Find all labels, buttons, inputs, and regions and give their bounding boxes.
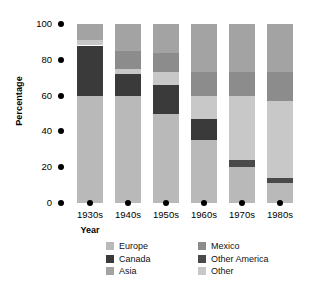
x-axis-tick-dot [277,200,283,206]
bar-segment-asia [267,24,293,72]
bar-segment-canada [115,74,141,95]
y-axis-tick-label: 40 [41,125,52,137]
legend-label: Other America [211,253,269,266]
legend-swatch-icon [106,267,114,275]
legend-column-1: EuropeCanadaAsia [106,240,151,278]
legend-label: Asia [119,265,137,278]
bar-segment-other [191,96,217,119]
bar-segment-other [77,40,103,45]
legend-label: Mexico [211,240,240,253]
legend-item-europe: Europe [106,240,151,253]
y-axis-tick: 60 [20,90,64,102]
bar-1930s [77,24,103,203]
y-axis-tick: 100 [20,18,64,30]
x-axis-tick-dot [239,200,245,206]
legend-item-canada: Canada [106,253,151,266]
legend-label: Europe [119,240,148,253]
y-axis-tick: 0 [20,197,64,209]
bar-1970s [229,24,255,203]
bar-segment-other-america [229,160,255,167]
legend-swatch-icon [198,255,206,263]
legend-swatch-icon [198,267,206,275]
bar-segment-mexico [153,53,179,73]
x-axis-tick-dot [201,200,207,206]
y-axis-tick-label: 20 [41,161,52,173]
chart-legend: EuropeCanadaAsia MexicoOther AmericaOthe… [106,240,306,282]
x-axis-tick-dot [163,200,169,206]
bar-segment-europe [229,167,255,203]
stacked-bar-chart: Percentage 100806040200 1930sYear1940s19… [0,0,314,288]
bar-1960s [191,24,217,203]
bar-segment-mexico [191,72,217,95]
legend-item-asia: Asia [106,265,151,278]
legend-label: Canada [119,253,151,266]
bar-segment-canada [191,119,217,140]
legend-label: Other [211,265,234,278]
bar-segment-europe [153,114,179,204]
y-axis-tick-label: 100 [36,18,52,30]
legend-item-other: Other [198,265,269,278]
bar-segment-canada [153,85,179,114]
legend-item-mexico: Mexico [198,240,269,253]
bar-segment-other [115,69,141,74]
x-axis-tick-dot [125,200,131,206]
bar-segment-other [229,96,255,160]
legend-swatch-icon [106,255,114,263]
y-axis-tick: 20 [20,161,64,173]
bar-segment-mexico [229,72,255,95]
bar-segment-europe [191,140,217,203]
y-axis-tick-label: 60 [41,90,52,102]
bar-segment-other [153,72,179,85]
legend-column-2: MexicoOther AmericaOther [198,240,269,278]
legend-swatch-icon [106,242,114,250]
legend-item-other-america: Other America [198,253,269,266]
plot-area [64,24,292,203]
bar-segment-europe [77,96,103,203]
bar-1940s [115,24,141,203]
x-axis-tick-label: 1980s [258,209,302,220]
y-axis-tick-label: 80 [41,54,52,66]
bar-segment-other-america [267,178,293,183]
bar-segment-other [267,101,293,178]
bar-segment-asia [191,24,217,72]
bar-segment-asia [153,24,179,53]
y-axis-tick: 80 [20,54,64,66]
bar-segment-mexico [115,51,141,69]
legend-swatch-icon [198,242,206,250]
bar-segment-mexico [267,72,293,101]
bar-segment-canada [77,46,103,96]
bar-1980s [267,24,293,203]
x-axis-tick-dot [87,200,93,206]
bar-segment-asia [77,24,103,40]
bar-segment-asia [115,24,141,51]
bar-1950s [153,24,179,203]
y-axis-tick: 40 [20,125,64,137]
y-axis-tick-label: 0 [47,197,52,209]
x-axis-title: Year [68,225,112,235]
bar-segment-asia [229,24,255,72]
bar-segment-europe [115,96,141,203]
